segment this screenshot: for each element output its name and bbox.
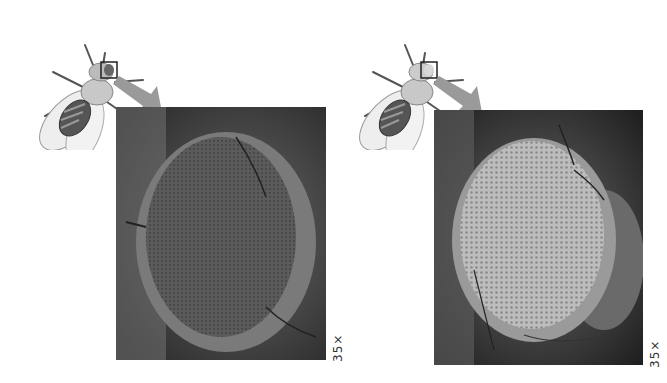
panel-left: 35×	[0, 0, 333, 383]
panel-right: 35×	[320, 0, 653, 383]
magnification-label-right: 35×	[648, 340, 662, 368]
eye-photo-dark	[116, 107, 326, 360]
eye-photo-light	[434, 110, 643, 365]
